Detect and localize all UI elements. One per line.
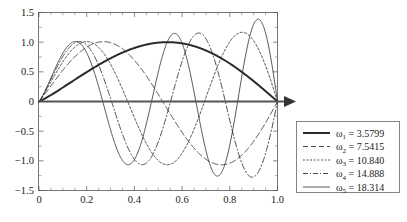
x-tick-label: 0.4 bbox=[128, 194, 142, 205]
curve-omega-2 bbox=[39, 42, 278, 165]
y-tick-label: 1.0 bbox=[21, 37, 34, 48]
x-tick-label: 0 bbox=[36, 194, 41, 205]
x-axis-tick-labels: 00.20.40.60.81.0 bbox=[36, 194, 284, 205]
x-tick-label: 0.2 bbox=[80, 194, 93, 205]
y-tick-label: 1.5 bbox=[21, 7, 34, 18]
legend: ω1 = 3.5799ω2 = 7.5415ω3 = 10.840ω4 = 14… bbox=[297, 122, 400, 196]
x-tick-label: 1.0 bbox=[271, 194, 284, 205]
curve-omega-3 bbox=[39, 32, 278, 164]
data-curves bbox=[39, 19, 278, 177]
y-tick-label: 0 bbox=[29, 96, 34, 107]
y-tick-label: −1.5 bbox=[15, 185, 34, 196]
x-tick-label: 0.6 bbox=[176, 194, 189, 205]
x-axis-arrowhead bbox=[284, 96, 296, 107]
y-tick-label: 0.5 bbox=[21, 66, 34, 77]
mode-shape-chart: 00.20.40.60.81.0 1.51.00.50−0.5−1.0−1.5 … bbox=[0, 0, 407, 222]
x-tick-label: 0.8 bbox=[223, 194, 236, 205]
y-tick-label: −0.5 bbox=[15, 126, 34, 137]
y-tick-label: −1.0 bbox=[15, 155, 34, 166]
y-axis-tick-labels: 1.51.00.50−0.5−1.0−1.5 bbox=[15, 7, 34, 196]
